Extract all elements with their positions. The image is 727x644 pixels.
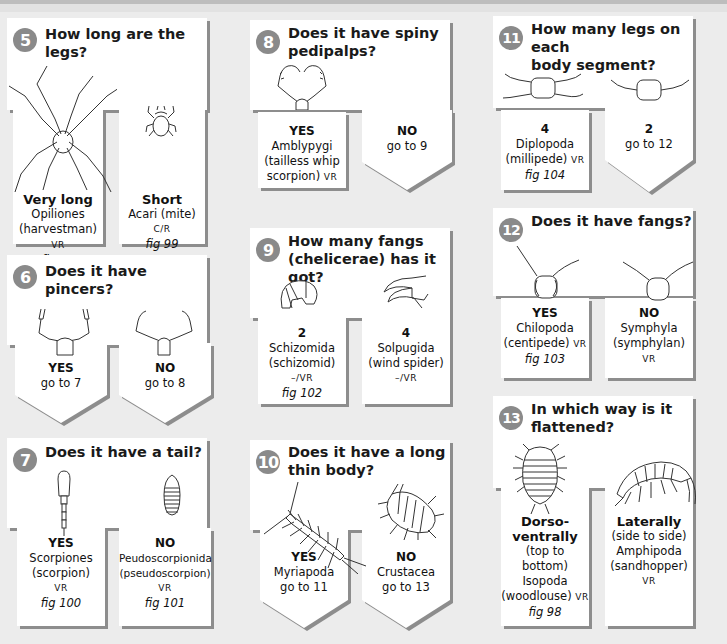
answer-label-line-2: ventrally [501,529,589,544]
status-code: VR [324,172,337,182]
question-line-1: In which way is it [531,400,672,418]
figure-ref: fig 104 [501,168,589,183]
answer-label: NO [362,550,450,565]
answer-taxon: Schizomida [258,341,346,356]
status-code: C/R [119,222,205,237]
question-line-2: pedipalps? [288,42,439,60]
answer-taxon: Peudoscorpionida [119,551,211,566]
goto-text: go to 12 [605,137,693,152]
answer-taxon: Amphipoda [605,544,693,559]
answer-common-name: (schizomid) [258,356,346,371]
answer-common-name: (scorpion) [17,566,105,581]
goto-text: go to 13 [362,580,450,595]
answer-card-4-legs[interactable]: 4 Diplopoda (millipede) VR fig 104 [501,110,589,190]
harvestman-illustration [7,64,117,194]
question-text: Does it have spiny pedipalps? [288,24,439,60]
answer-common-name: (wind spider) [362,356,450,371]
answer-card-4-fangs[interactable]: 4 Solpugida (wind spider) –/VR [362,318,450,404]
answer-label: NO [119,361,211,376]
isopoda-illustration [513,444,567,516]
mite-illustration [145,104,177,140]
answer-arrow-2-legs[interactable]: 2 go to 12 [605,108,693,192]
answer-label: NO [605,306,693,321]
answer-detail-line-1: (top to [501,544,589,559]
amphipod-illustration [611,458,697,508]
answer-card-yes[interactable]: YES Amblypygi (tailless whip scorpion) V… [258,112,346,188]
answer-label: YES [15,361,107,376]
answer-arrow-no[interactable]: NO go to 9 [362,110,452,190]
pseudoscorpion-abdomen-illustration [163,474,181,516]
answer-card-yes[interactable]: YES Chilopoda (centipede) VR fig 103 [501,298,589,378]
answer-label: Very long [13,192,103,207]
answer-taxon: Symphyla [605,321,693,336]
status-code: VR [573,339,586,349]
answer-label-line-1: Dorso- [501,514,589,529]
question-number-badge: 5 [13,28,37,52]
answer-common-name: (symphylan) [613,336,685,350]
question-number-badge: 9 [256,238,280,262]
status-code: VR [119,581,211,596]
spiny-pedipalps-illustration [276,62,328,110]
question-text: How long are the legs? [45,25,207,61]
answer-label: 2 [258,326,346,341]
figure-ref: fig 103 [501,352,589,367]
question-line-1: How many fangs [288,232,450,250]
answer-taxon: Scorpiones [17,551,105,566]
figure-ref: fig 101 [119,596,211,611]
four-legs-segment-illustration [503,72,583,102]
figure-ref: fig 98 [501,605,589,620]
question-line-1: How many legs on each [531,20,693,56]
answer-taxon: Opiliones [13,207,103,222]
answer-taxon: Crustacea [362,565,450,580]
answer-label: Laterally [605,514,693,529]
question-number-badge: 8 [256,30,280,54]
answer-card-2-fangs[interactable]: 2 Schizomida (schizomid) –/VR fig 102 [258,318,346,404]
question-text: How many legs on each body segment? [531,20,693,74]
centipede-head-illustration [515,246,581,302]
answer-label: 2 [605,122,693,137]
status-code: VR [51,240,64,250]
woodlouse-illustration [378,484,444,540]
top-band [0,4,727,12]
figure-ref: fig 99 [119,237,205,252]
answer-taxon: Diplopoda [501,137,589,152]
status-code: –/VR [362,371,450,386]
answer-label: 4 [501,122,589,137]
answer-taxon: Isopoda [501,574,589,589]
status-code: VR [575,592,588,602]
question-line-2: thin body? [288,461,445,479]
symphylan-head-illustration [623,260,693,304]
question-number-badge: 11 [499,26,523,50]
answer-label: YES [501,306,589,321]
no-pincers-illustration [132,307,196,359]
answer-detail-line-2: bottom) [501,559,589,574]
answer-common-name: (millipede) [506,152,568,166]
answer-card-no[interactable]: NO Symphyla (symphylan) VR [605,298,693,378]
question-number-badge: 7 [13,448,37,472]
question-number-badge: 6 [13,265,37,289]
answer-card-yes[interactable]: YES Scorpiones (scorpion) VR fig 100 [17,528,105,626]
goto-text: go to 8 [119,376,211,391]
two-fangs-illustration [278,278,322,312]
figure-ref: fig 102 [258,386,346,401]
status-code: VR [571,155,584,165]
answer-card-no[interactable]: NO Peudoscorpionida (pseudoscorpion) VR … [119,528,211,626]
answer-common-name: (woodlouse) [501,589,571,603]
answer-taxon: Acari (mite) [119,207,205,222]
question-number-badge: 10 [256,450,280,474]
goto-text: go to 11 [260,580,348,595]
answer-taxon: Amblypygi [258,139,346,154]
goto-text: go to 7 [15,376,107,391]
answer-label: Short [119,192,205,207]
scorpion-tail-illustration [57,470,71,538]
status-code: VR [605,574,693,589]
status-code: –/VR [258,371,346,386]
answer-common-name: (pseudoscorpion) [119,566,211,581]
question-text: Does it have pincers? [45,262,207,298]
figure-ref: fig 100 [17,596,105,611]
status-code: VR [17,581,105,596]
answer-common-name: (harvestman) [19,222,97,236]
answer-common-name: (centipede) [503,336,569,350]
answer-arrow-no[interactable]: NO Crustacea go to 13 [362,528,450,628]
answer-label: NO [119,536,211,551]
